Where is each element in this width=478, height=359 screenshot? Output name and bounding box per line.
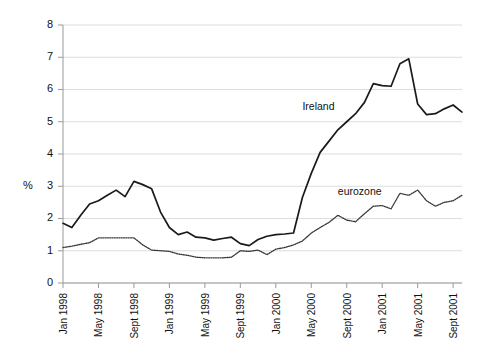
chart-container: 012345678 Jan 1998May 1998Sept 1998Jan 1… xyxy=(0,0,478,359)
y-tick-label-6: 6 xyxy=(47,82,53,94)
x-tick-label-5: Sept 1999 xyxy=(235,293,246,339)
y-axis xyxy=(58,25,63,283)
y-tick-label-8: 8 xyxy=(47,18,53,30)
x-tick-label-4: May 1999 xyxy=(200,293,211,337)
series-annotations: Irelandeurozone xyxy=(302,100,381,197)
x-axis xyxy=(63,283,462,288)
series-annotation-eurozone: eurozone xyxy=(338,185,382,197)
y-tick-label-1: 1 xyxy=(47,244,53,256)
y-tick-labels: 012345678 xyxy=(47,18,53,288)
gridlines xyxy=(63,25,462,283)
y-tick-label-3: 3 xyxy=(47,179,53,191)
x-tick-label-10: May 2001 xyxy=(413,293,424,337)
data-series xyxy=(63,59,462,258)
x-tick-label-6: Jan 2000 xyxy=(271,293,282,335)
y-tick-label-2: 2 xyxy=(47,211,53,223)
x-tick-label-2: Sept 1998 xyxy=(129,293,140,339)
x-tick-label-3: Jan 1999 xyxy=(164,293,175,335)
x-tick-labels: Jan 1998May 1998Sept 1998Jan 1999May 199… xyxy=(58,293,459,339)
x-tick-label-0: Jan 1998 xyxy=(58,293,69,335)
series-annotation-ireland: Ireland xyxy=(302,100,334,112)
series-line-eurozone xyxy=(63,190,462,258)
series-line-ireland xyxy=(63,59,462,246)
line-chart: 012345678 Jan 1998May 1998Sept 1998Jan 1… xyxy=(0,0,478,359)
x-tick-label-7: May 2000 xyxy=(306,293,317,337)
y-tick-label-5: 5 xyxy=(47,115,53,127)
y-tick-label-7: 7 xyxy=(47,50,53,62)
y-tick-label-4: 4 xyxy=(47,147,53,159)
y-tick-label-0: 0 xyxy=(47,276,53,288)
y-axis-unit-label: % xyxy=(23,179,33,191)
x-tick-label-9: Jan 2001 xyxy=(377,293,388,335)
x-tick-label-11: Sept 2001 xyxy=(448,293,459,339)
x-tick-label-1: May 1998 xyxy=(93,293,104,337)
x-tick-label-8: Sept 2000 xyxy=(342,293,353,339)
